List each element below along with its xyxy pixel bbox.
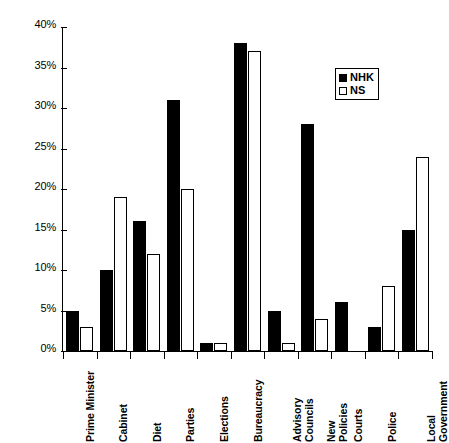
y-axis-tick-mark xyxy=(61,351,67,352)
bar-group xyxy=(164,27,198,351)
y-axis-tick-label: 40% xyxy=(35,19,56,30)
bar-nhk xyxy=(133,221,146,351)
bar-ns xyxy=(114,197,127,351)
bar-group xyxy=(398,27,432,351)
y-axis-tick-label: 25% xyxy=(35,141,56,152)
x-axis-label: Parties xyxy=(185,362,197,442)
x-axis-label: Courts xyxy=(353,362,365,442)
legend-swatch-hollow-square-icon xyxy=(339,87,347,95)
category-separator xyxy=(97,351,98,359)
category-separator xyxy=(264,351,265,359)
bar-group xyxy=(264,27,298,351)
category-separator xyxy=(331,351,332,359)
x-axis-label: Advisory Councils xyxy=(292,362,315,442)
bar-group xyxy=(130,27,164,351)
bar-ns xyxy=(181,189,194,351)
bar-nhk xyxy=(100,270,113,351)
legend-swatch-filled-square-icon xyxy=(339,74,347,82)
bar-group xyxy=(63,27,97,351)
legend-label-ns: NS xyxy=(350,85,365,96)
category-separator xyxy=(63,351,64,359)
y-axis-tick-label: 15% xyxy=(35,222,56,233)
bar-nhk xyxy=(66,311,79,352)
bar-nhk xyxy=(167,100,180,351)
legend-item-ns: NS xyxy=(339,84,374,97)
y-axis-tick-label: 30% xyxy=(35,100,56,111)
bar-group xyxy=(197,27,231,351)
bar-ns xyxy=(315,319,328,351)
category-separator xyxy=(197,351,198,359)
x-axis-label: Prime Minister xyxy=(85,362,97,442)
x-axis-label: Diet xyxy=(152,362,164,442)
x-axis-line xyxy=(62,351,432,352)
bar-nhk xyxy=(368,327,381,351)
x-axis-label: Elections xyxy=(219,362,231,442)
category-separator xyxy=(130,351,131,359)
category-separator xyxy=(365,351,366,359)
y-axis-tick-label: 20% xyxy=(35,181,56,192)
category-separator xyxy=(432,351,433,359)
bar-nhk xyxy=(268,311,281,352)
y-axis-tick-label: 0% xyxy=(41,343,57,354)
bar-ns xyxy=(416,157,429,351)
bar-nhk xyxy=(200,343,213,351)
bar-ns xyxy=(214,343,227,351)
y-axis-tick-label: 10% xyxy=(35,262,56,273)
x-axis-label: Bureaucracy xyxy=(253,362,265,442)
category-separator xyxy=(164,351,165,359)
bar-group xyxy=(97,27,131,351)
bar-nhk xyxy=(335,302,348,351)
x-axis-label: Cabinet xyxy=(118,362,130,442)
category-separator xyxy=(231,351,232,359)
bar-ns xyxy=(282,343,295,351)
x-axis-label: Local Government xyxy=(426,362,449,442)
category-separator xyxy=(298,351,299,359)
y-axis-tick-label: 5% xyxy=(41,303,57,314)
bar-group xyxy=(231,27,265,351)
bar-nhk xyxy=(402,230,415,352)
legend-item-nhk: NHK xyxy=(339,71,374,84)
bar-ns xyxy=(382,286,395,351)
bar-nhk xyxy=(301,124,314,351)
bar-nhk xyxy=(234,43,247,351)
bar-ns xyxy=(80,327,93,351)
x-axis-label: New Policies xyxy=(326,362,349,442)
x-axis-label: Police xyxy=(387,362,399,442)
bar-group xyxy=(298,27,332,351)
legend: NHK NS xyxy=(335,68,379,100)
bar-ns xyxy=(248,51,261,351)
bar-ns xyxy=(147,254,160,351)
y-axis-tick-label: 35% xyxy=(35,60,56,71)
category-separator xyxy=(398,351,399,359)
legend-label-nhk: NHK xyxy=(350,72,374,83)
